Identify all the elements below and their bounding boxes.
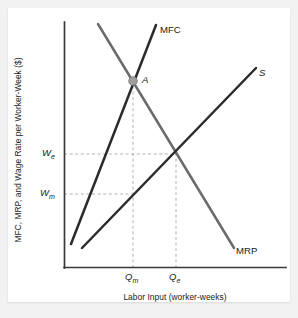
point-a-label: A [142,74,148,85]
y-tick-we-base: W [42,147,51,158]
x-tick-qm-sub: m [132,277,138,284]
y-tick-label-we: We [42,147,55,160]
x-tick-qe-sub: e [176,277,180,284]
y-tick-wm-base: W [40,187,49,198]
x-tick-label-qe: Qe [169,271,180,284]
mfc-curve-label: MFC [160,24,181,35]
y-tick-wm-sub: m [49,193,55,200]
supply-curve-label: S [259,67,265,78]
y-axis-title: MFC, MRP, and Wage Rate per Worker-Week … [13,50,23,250]
mfc-curve [71,25,156,244]
x-tick-label-qm: Qm [125,271,138,284]
y-tick-we-sub: e [51,153,55,160]
point-a-marker [129,77,138,86]
mrp-curve [98,24,234,248]
guide-lines [64,81,176,268]
y-tick-label-wm: Wm [40,187,55,200]
x-axis-title: Labor Input (worker-weeks) [64,292,286,302]
mrp-curve-label: MRP [236,245,257,256]
supply-curve [82,68,256,248]
chart-figure: MFC, MRP, and Wage Rate per Worker-Week … [0,0,298,318]
